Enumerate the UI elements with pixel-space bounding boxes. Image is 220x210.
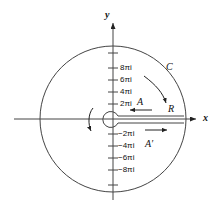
figure-canvas: y x 8πi 6πi 4πi 2πi −2πi −4πi −6πi −8πi … [0, 0, 220, 210]
x-axis-label: x [203, 113, 208, 123]
y-tick-label-neg2pi: −2πi [118, 130, 134, 138]
y-tick-label-neg6pi: −6πi [118, 154, 134, 162]
radius-label: R [168, 104, 174, 114]
y-tick-label-neg4pi: −4πi [118, 142, 134, 150]
contour-label: C [166, 62, 173, 72]
outer-arc-direction-arrow [144, 76, 166, 103]
y-axis-label: y [105, 10, 109, 20]
contour-diagram-svg [0, 0, 220, 210]
y-tick-label-4pi: 4πi [120, 88, 132, 96]
y-tick-label-8pi: 8πi [120, 64, 132, 72]
upper-cut-label: A [137, 97, 143, 107]
y-tick-label-2pi: 2πi [120, 100, 132, 108]
lower-cut-label: A′ [145, 139, 153, 149]
y-tick-label-neg8pi: −8πi [118, 166, 134, 174]
y-tick-label-6pi: 6πi [120, 76, 132, 84]
